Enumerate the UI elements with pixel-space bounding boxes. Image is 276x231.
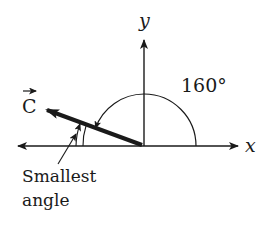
- angle-arc-160: [96, 94, 197, 146]
- annotation-line2: angle: [22, 190, 69, 210]
- annotation-pointer: [58, 134, 76, 164]
- x-axis-label: x: [245, 134, 256, 156]
- vector-c-label-group: C: [22, 91, 37, 117]
- vector-angle-diagram: y x C 160° Smallest angle: [0, 0, 276, 231]
- angle-label-160: 160°: [181, 74, 227, 96]
- smallest-angle-arc-inner: [76, 124, 80, 146]
- vector-c-arrow: [47, 110, 142, 145]
- vector-c-label: C: [22, 95, 37, 117]
- annotation-line1: Smallest: [22, 166, 97, 186]
- smallest-angle-arc: [83, 126, 86, 146]
- y-axis-label: y: [138, 9, 150, 31]
